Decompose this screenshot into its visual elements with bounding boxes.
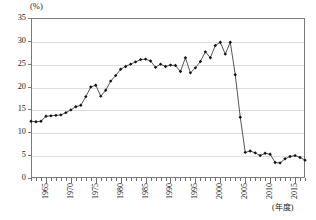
gridline [32,133,304,134]
y-tick-label: 15 [4,105,26,113]
x-tick-minor [225,178,226,181]
x-tick-minor [300,178,301,181]
x-tick-minor [76,178,77,181]
x-tick-minor [215,178,216,181]
x-tick-minor [141,178,142,181]
x-tick-label: 1970 [67,183,75,199]
x-tick-minor [116,178,117,181]
x-tick-label: 1990 [166,183,174,199]
plot-area [31,18,305,178]
x-tick-label: 2005 [241,183,249,199]
x-tick-label: 1995 [191,183,199,199]
x-tick-minor [200,178,201,181]
y-tick-label: 5 [4,151,26,159]
x-tick-minor [240,178,241,181]
y-tick-label: 20 [4,83,26,91]
gridline [32,156,304,157]
gridline [32,65,304,66]
x-tick-minor [280,178,281,181]
x-tick-minor [41,178,42,181]
x-tick-minor [31,178,32,181]
x-tick-minor [111,178,112,181]
y-tick-label: 35 [4,14,26,22]
x-tick-minor [86,178,87,181]
x-tick-minor [81,178,82,181]
x-tick-minor [66,178,67,181]
x-tick-minor [255,178,256,181]
y-tick-label: 0 [4,174,26,182]
x-tick-minor [91,178,92,181]
x-tick-minor [275,178,276,181]
x-tick-minor [305,178,306,181]
y-tick-label: 30 [4,37,26,45]
x-tick-minor [175,178,176,181]
x-tick-minor [36,178,37,181]
x-tick-minor [151,178,152,181]
x-tick-minor [210,178,211,181]
x-tick-minor [190,178,191,181]
x-tick-minor [205,178,206,181]
x-tick-minor [56,178,57,181]
x-tick-label: 1965 [42,183,50,199]
y-tick-label: 25 [4,60,26,68]
x-tick-minor [265,178,266,181]
x-tick-label: 2000 [216,183,224,199]
x-tick-minor [61,178,62,181]
x-tick-minor [156,178,157,181]
x-tick-minor [131,178,132,181]
chart-container: (%) 05101520253035 196519701975198019851… [0,0,316,220]
x-tick-minor [250,178,251,181]
x-tick-minor [161,178,162,181]
y-tick-label: 10 [4,128,26,136]
gridline [32,110,304,111]
gridline [32,88,304,89]
x-tick-minor [166,178,167,181]
x-tick-label: 1985 [142,183,150,199]
x-tick-minor [230,178,231,181]
x-tick-label: 1975 [92,183,100,199]
x-tick-minor [185,178,186,181]
x-tick-minor [285,178,286,181]
x-tick-label: 2015 [291,183,299,199]
x-tick-minor [180,178,181,181]
x-axis-title: (年度) [272,204,293,212]
x-tick-minor [106,178,107,181]
x-tick-label: 1980 [117,183,125,199]
x-tick-minor [51,178,52,181]
x-tick-minor [126,178,127,181]
x-tick-minor [136,178,137,181]
x-tick-minor [235,178,236,181]
gridline [32,42,304,43]
x-tick-label: 2010 [266,183,274,199]
x-tick-minor [101,178,102,181]
x-tick-minor [260,178,261,181]
x-tick-minor [290,178,291,181]
